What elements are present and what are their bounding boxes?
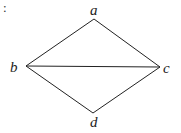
edge-b-c [26, 66, 160, 67]
node-label-b: b [10, 59, 18, 75]
node-label-d: d [90, 114, 98, 130]
node-label-a: a [90, 2, 98, 18]
colon-prefix: : [3, 0, 7, 15]
edge-c-d [93, 67, 160, 113]
edge-a-c [94, 19, 160, 67]
edge-a-b [26, 19, 94, 66]
node-label-c: c [163, 60, 170, 76]
edge-b-d [26, 66, 93, 113]
graph-diagram: : a b c d [0, 0, 181, 133]
